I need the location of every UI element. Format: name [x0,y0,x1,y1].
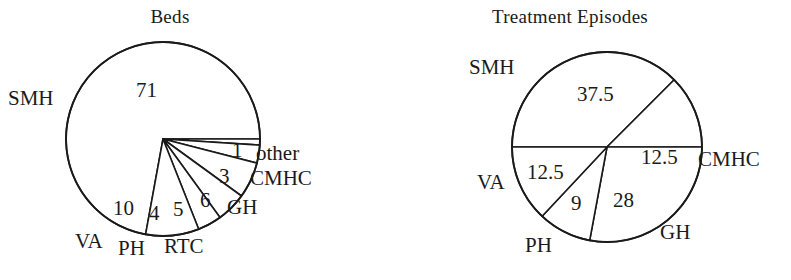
beds-label-smh: SMH [8,88,54,109]
episodes-label-smh: SMH [469,57,515,78]
episodes-label-gh: GH [660,222,690,243]
episodes-value-va: 12.5 [527,162,564,183]
episodes-pie-chart-panel: Treatment Episodes 37.5 12.5 28 9 12.5 [395,0,791,280]
beds-label-cmhc: CMHC [250,168,312,189]
beds-chart-title: Beds [0,6,340,28]
episodes-value-smh: 37.5 [577,84,614,105]
episodes-value-gh: 28 [613,190,634,211]
episodes-label-ph: PH [525,235,552,256]
beds-value-va: 10 [113,198,134,219]
episodes-value-cmhc: 12.5 [641,147,678,168]
beds-label-rtc: RTC [164,236,204,257]
beds-value-smh: 71 [136,80,157,101]
beds-value-cmhc: 3 [219,166,230,187]
beds-pie-chart-panel: Beds 71 1 3 [0,0,395,280]
episodes-label-va: VA [477,172,505,193]
pie-chart-figure: Beds 71 1 3 [0,0,791,280]
beds-label-ph: PH [118,238,145,259]
beds-value-other: 1 [232,140,243,161]
beds-value-gh: 6 [200,190,211,211]
beds-label-other: other [256,143,299,164]
beds-value-rtc: 5 [173,199,184,220]
beds-value-ph: 4 [149,203,160,224]
episodes-pie-svg [395,0,791,280]
episodes-chart-title: Treatment Episodes [440,6,700,28]
beds-label-gh: GH [227,197,257,218]
beds-label-va: VA [75,231,103,252]
episodes-label-cmhc: CMHC [698,149,760,170]
episodes-value-ph: 9 [571,193,582,214]
